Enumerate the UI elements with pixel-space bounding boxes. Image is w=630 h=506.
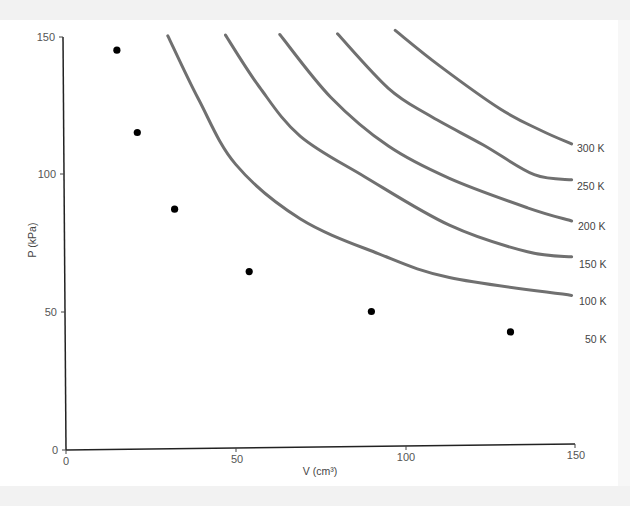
y-tick-label: 0: [52, 444, 58, 456]
isotherm-250k: [338, 34, 572, 180]
isotherm-200k: [280, 35, 572, 222]
curve-label-150k: 150 K: [579, 258, 606, 270]
x-tick-label: 50: [231, 453, 243, 465]
isotherm-curves: [168, 30, 572, 295]
data-point: [134, 129, 141, 136]
y-tick-label: 100: [38, 168, 56, 180]
curve-label-300k: 300 K: [577, 142, 604, 154]
curve-label-100k: 100 K: [579, 295, 606, 307]
curve-label-250k: 250 K: [577, 180, 604, 192]
x-axis-title: V (cm³): [303, 465, 337, 477]
data-point: [246, 268, 253, 275]
data-point: [368, 308, 375, 315]
data-points: [113, 47, 514, 336]
curve-label-200k: 200 K: [578, 220, 605, 232]
y-axis-line: [63, 37, 66, 450]
isotherm-150k: [226, 35, 572, 257]
y-tick-label: 150: [37, 31, 55, 43]
y-axis-title: P (kPa): [26, 223, 38, 258]
isotherm-100k: [168, 36, 572, 296]
data-point: [507, 328, 514, 335]
isotherm-300k: [395, 30, 571, 143]
pv-chart: 150 100 50 0 0 50 100 150 V (cm³) P (kPa…: [0, 0, 630, 506]
x-tick-label: 100: [397, 451, 415, 463]
data-point: [171, 206, 178, 213]
x-tick-label: 150: [567, 449, 585, 461]
y-tick-label: 50: [45, 306, 57, 318]
curve-label-50k: 50 K: [585, 333, 607, 345]
x-axis-line: [66, 444, 575, 450]
data-point: [113, 47, 120, 54]
x-tick-label: 0: [63, 455, 69, 467]
